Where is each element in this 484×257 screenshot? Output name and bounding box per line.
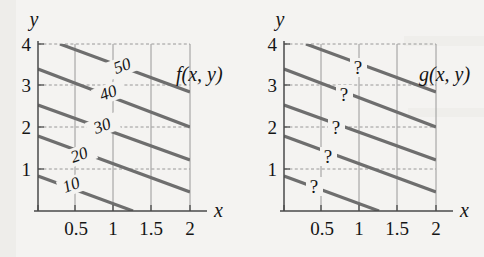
x-tick-labels-g: 0.5 1 1.5 2 xyxy=(310,218,441,239)
y-tick-labels-g: 4 3 2 1 xyxy=(268,34,278,180)
function-label-f: f(x, y) xyxy=(176,63,223,86)
contour-line xyxy=(284,105,436,160)
x-tick-1: 1 xyxy=(354,218,364,239)
x-axis-label-f: x xyxy=(213,199,223,221)
contour-label-2: ? xyxy=(324,146,332,167)
x-tick-0p5: 0.5 xyxy=(310,218,334,239)
y-tick-4: 4 xyxy=(22,34,32,55)
plot-svg-g: 4 3 2 1 0.5 1 1.5 2 y x g(x, y) ? ? ? ? … xyxy=(246,0,484,257)
y-tick-1: 1 xyxy=(22,159,32,180)
x-tick-2: 2 xyxy=(431,218,441,239)
y-axis-label-f: y xyxy=(28,8,39,31)
y-tick-3: 3 xyxy=(268,75,278,96)
plot-svg-f: 4 3 2 1 0.5 1 1.5 2 y x f(x, y) 10 20 30 xyxy=(0,0,242,257)
figure-canvas: 4 3 2 1 0.5 1 1.5 2 y x f(x, y) 10 20 30 xyxy=(0,0,484,257)
y-tick-2: 2 xyxy=(22,117,32,138)
x-tick-0p5: 0.5 xyxy=(64,218,88,239)
function-label-g: g(x, y) xyxy=(419,63,470,86)
y-tick-1: 1 xyxy=(268,159,278,180)
contour-label-1: ? xyxy=(310,176,318,197)
y-tick-3: 3 xyxy=(22,75,32,96)
y-tick-labels-f: 4 3 2 1 xyxy=(22,34,32,180)
y-tick-4: 4 xyxy=(268,34,278,55)
contour-label-5: ? xyxy=(354,57,362,78)
contour-label-3: ? xyxy=(332,117,340,138)
y-axis-label-g: y xyxy=(274,8,285,31)
x-tick-1p5: 1.5 xyxy=(139,218,163,239)
y-tick-2: 2 xyxy=(268,117,278,138)
x-tick-2: 2 xyxy=(185,218,195,239)
contour-line xyxy=(284,176,379,211)
contour-label-4: ? xyxy=(340,84,348,105)
x-axis-label-g: x xyxy=(459,199,469,221)
contour-plot-f: 4 3 2 1 0.5 1 1.5 2 y x f(x, y) 10 20 30 xyxy=(0,0,242,257)
contour-labels-f: 10 20 30 40 50 xyxy=(60,54,134,197)
x-tick-labels-f: 0.5 1 1.5 2 xyxy=(64,218,195,239)
x-tick-1p5: 1.5 xyxy=(385,218,409,239)
contour-plot-g: 4 3 2 1 0.5 1 1.5 2 y x g(x, y) ? ? ? ? … xyxy=(246,0,484,257)
x-tick-1: 1 xyxy=(108,218,118,239)
